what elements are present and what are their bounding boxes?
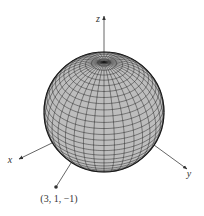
y-axis-label: y	[186, 168, 192, 179]
point-connector-line	[56, 163, 71, 187]
sphere-diagram: z x y (3, 1, −1)	[0, 0, 204, 216]
sphere	[44, 52, 164, 172]
point-marker	[54, 185, 58, 189]
x-axis-label: x	[7, 154, 13, 165]
z-axis-label: z	[95, 13, 100, 24]
point-label: (3, 1, −1)	[40, 193, 77, 205]
y-axis	[154, 145, 187, 169]
x-axis	[19, 143, 52, 159]
